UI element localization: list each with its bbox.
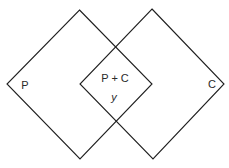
- venn-diagram: P C P + C y: [0, 0, 229, 168]
- intersection-label: P + C: [101, 72, 129, 84]
- intersection-sublabel: y: [110, 91, 118, 103]
- set-c-label: C: [208, 78, 216, 90]
- set-p-label: P: [21, 79, 28, 91]
